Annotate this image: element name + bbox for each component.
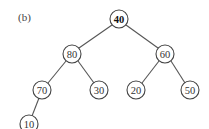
node-label: 10	[24, 119, 35, 129]
edge-60-20	[142, 61, 159, 83]
node-label: 20	[131, 85, 142, 96]
tree-node-10: 10	[20, 115, 38, 129]
edge-70-10	[32, 98, 39, 116]
edge-60-50	[171, 61, 185, 83]
edge-80-70	[48, 61, 66, 83]
edge-80-30	[78, 61, 94, 83]
node-label: 50	[185, 85, 196, 96]
node-label: 30	[94, 85, 105, 96]
node-label: 70	[37, 85, 48, 96]
edges	[32, 25, 185, 116]
node-label: 40	[114, 14, 125, 25]
tree-node-70: 70	[33, 81, 51, 99]
tree-node-50: 50	[181, 81, 199, 99]
node-label: 80	[67, 49, 78, 60]
tree-node-80: 80	[63, 45, 81, 63]
tree-node-30: 30	[90, 81, 108, 99]
tree-node-60: 60	[156, 45, 174, 63]
tree-node-20: 20	[127, 81, 145, 99]
edge-40-60	[126, 25, 158, 48]
tree-diagram: (b) 40 80 60 70 30 20 50 10	[0, 0, 209, 129]
panel-label: (b)	[18, 11, 31, 24]
node-label: 60	[160, 49, 171, 60]
tree-node-40: 40	[110, 10, 128, 28]
edge-40-80	[79, 25, 112, 48]
